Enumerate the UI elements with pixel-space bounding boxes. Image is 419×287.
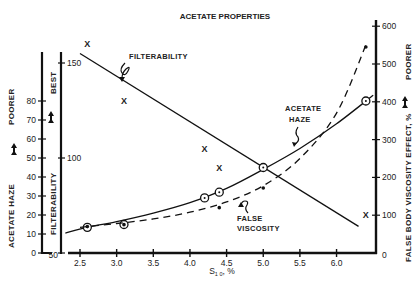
x-tick-label: 5.0: [257, 258, 269, 268]
x-tick-label: 3.5: [147, 258, 159, 268]
dot-marker: [122, 223, 126, 227]
annotation-false-viscosity-line2: VISCOSITY: [237, 224, 280, 233]
fbv-tick-label: 300: [382, 135, 396, 145]
fbv-axis-label: FALSE BODY VISCOSITY EFFECT, %: [404, 113, 413, 262]
x-tick-label: 6.0: [331, 258, 343, 268]
series-group: XXXXX: [65, 39, 373, 233]
x-tick-label: 4.0: [184, 258, 196, 268]
x-tick-label: 2.5: [74, 258, 86, 268]
annotation-filterability-arrow-icon: [121, 63, 129, 78]
haze-axis-label: ACETATE HAZE: [7, 183, 16, 248]
fbv-direction-label: POORER: [404, 44, 413, 80]
annotation-false-viscosity-line1: FALSE: [237, 214, 263, 223]
x-marker: X: [202, 144, 208, 154]
acetate-properties-chart: ACETATE PROPERTIES 2.53.03.54.04.55.05.5…: [0, 0, 419, 287]
filterability-tick-label: 150: [67, 58, 81, 68]
haze-tick-label: 80: [27, 96, 37, 106]
circle-marker-center: [365, 100, 367, 102]
filterability-tick-label: 50: [49, 250, 59, 260]
fbv-tick-label: 500: [382, 59, 396, 69]
filterability-direction-label: BEST: [49, 71, 58, 94]
haze-up-arrow-icon: [11, 143, 17, 155]
fbv-tick-label: 600: [382, 21, 396, 31]
x-marker: X: [121, 96, 127, 106]
dot-marker: [217, 206, 221, 210]
haze-tick-label: 60: [27, 134, 37, 144]
haze-tick-label: 70: [27, 115, 37, 125]
x-marker: X: [363, 210, 369, 220]
chart-title: ACETATE PROPERTIES: [180, 12, 271, 21]
haze-direction-label: POORER: [7, 89, 16, 125]
filterability-axis-label: FILTERABILITY: [49, 172, 58, 235]
annotation-haze-line2: HAZE: [289, 115, 311, 124]
ticks: 2.53.03.54.04.55.05.56.00102030405060708…: [27, 21, 397, 268]
circle-marker-center: [218, 191, 220, 193]
dot-marker: [86, 225, 90, 229]
circle-marker-center: [262, 167, 264, 169]
haze-tick-label: 20: [27, 210, 37, 220]
filterability-up-arrow-icon: [48, 111, 54, 123]
haze-tick-label: 50: [27, 153, 37, 163]
haze-tick-label: 40: [27, 172, 37, 182]
x-marker: X: [216, 163, 222, 173]
fbv-tick-label: 0: [382, 250, 387, 260]
dot-marker: [261, 186, 265, 190]
annotation-haze-line1: ACETATE: [285, 104, 321, 113]
annotation-false-viscosity-arrowhead-icon: [238, 202, 244, 207]
fbv-up-arrow-icon: [402, 96, 408, 108]
x-marker: X: [84, 39, 90, 49]
fbv-tick-label: 400: [382, 97, 396, 107]
axes: [42, 20, 377, 254]
x-tick-label: 5.5: [294, 258, 306, 268]
series-filterability: XXXXX: [80, 39, 369, 226]
haze-tick-label: 10: [27, 229, 37, 239]
annotation-haze-arrow-icon: [295, 127, 299, 144]
circle-marker-center: [204, 197, 206, 199]
dot-marker: [364, 45, 368, 49]
fbv-tick-label: 200: [382, 172, 396, 182]
x-axis-label: S1 0, %: [209, 266, 235, 277]
annotation-filterability: FILTERABILITY: [129, 52, 188, 61]
filterability-tick-label: 100: [67, 153, 81, 163]
haze-tick-label: 0: [31, 248, 36, 258]
x-tick-label: 3.0: [111, 258, 123, 268]
haze-tick-label: 30: [27, 191, 37, 201]
fbv-tick-label: 100: [382, 210, 396, 220]
